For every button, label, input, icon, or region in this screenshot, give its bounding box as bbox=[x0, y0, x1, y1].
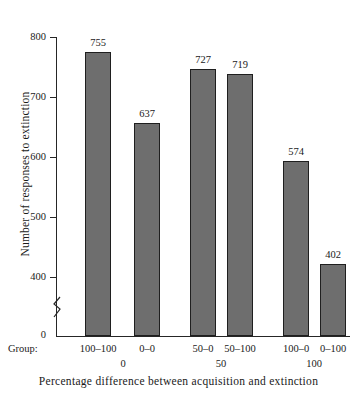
x-tick-label-0-0: 0–0 bbox=[117, 343, 177, 354]
bar-chart-figure: Number of responses to extinction 800 70… bbox=[0, 0, 357, 402]
bar-value-0-0: 637 bbox=[124, 109, 170, 120]
y-axis-break-icon bbox=[50, 296, 64, 318]
bar-100-0 bbox=[283, 161, 309, 336]
bar-value-100-0: 574 bbox=[273, 147, 319, 158]
bar-50-0 bbox=[190, 69, 216, 336]
y-tick-label-500: 500 bbox=[6, 212, 46, 223]
y-axis-line bbox=[56, 37, 57, 337]
bar-100-100 bbox=[85, 52, 111, 336]
y-tick-label-800: 800 bbox=[6, 32, 46, 43]
y-tick-400 bbox=[50, 277, 57, 278]
bar-50-100 bbox=[227, 74, 253, 336]
group-row-label: Group: bbox=[8, 343, 38, 354]
group-header-50: 50 bbox=[191, 358, 251, 369]
y-tick-label-400: 400 bbox=[6, 272, 46, 283]
x-tick-label-50-100: 50–100 bbox=[210, 343, 270, 354]
bar-0-0 bbox=[134, 123, 160, 336]
y-tick-label-600: 600 bbox=[6, 152, 46, 163]
bar-value-0-100: 402 bbox=[310, 250, 356, 261]
y-tick-label-700: 700 bbox=[6, 92, 46, 103]
x-tick-label-0-100: 0–100 bbox=[303, 343, 357, 354]
y-tick-500 bbox=[50, 217, 57, 218]
y-tick-label-0: 0 bbox=[6, 330, 46, 341]
bar-value-50-100: 719 bbox=[217, 60, 263, 71]
group-header-100: 100 bbox=[284, 358, 344, 369]
y-tick-700 bbox=[50, 97, 57, 98]
y-tick-600 bbox=[50, 157, 57, 158]
x-axis-title: Percentage difference between acquisitio… bbox=[0, 375, 357, 387]
x-axis-line bbox=[56, 336, 350, 337]
bar-value-100-100: 755 bbox=[75, 38, 121, 49]
bar-0-100 bbox=[320, 264, 346, 336]
y-tick-800 bbox=[50, 37, 57, 38]
group-header-0: 0 bbox=[93, 358, 153, 369]
